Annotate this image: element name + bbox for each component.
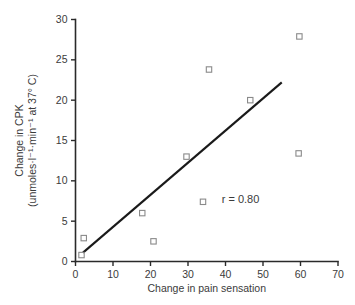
x-tick-label: 40 [220,268,232,280]
data-point [248,97,253,102]
y-axis-title-line2: (unmoles·l⁻¹·min⁻¹ at 37° C) [26,74,38,207]
y-tick-label: 25 [56,53,68,65]
y-tick-label: 15 [56,134,68,146]
data-point [140,210,145,215]
y-axis-title-line1: Change in CPK [13,104,25,176]
plot-area: 051015202530 010203040506070 r = 0.80 Ch… [0,0,355,305]
data-point [296,151,301,156]
x-tick-label: 70 [332,268,344,280]
regression-line [83,82,282,252]
y-axis-tick-labels: 051015202530 [56,13,68,267]
data-point [184,154,189,159]
y-axis-title: Change in CPK (unmoles·l⁻¹·min⁻¹ at 37° … [13,74,38,207]
x-axis-title: Change in pain sensation [147,282,266,294]
data-point [81,235,86,240]
y-tick-label: 10 [56,174,68,186]
y-tick-label: 0 [62,255,68,267]
data-point-markers [79,34,302,258]
data-point [79,252,84,257]
x-tick-label: 60 [295,268,307,280]
y-tick-label: 30 [56,13,68,25]
data-point [151,239,156,244]
correlation-annotation: r = 0.80 [222,193,260,205]
x-axis-tick-labels: 010203040506070 [73,268,344,280]
data-point [297,34,302,39]
x-tick-label: 20 [145,268,157,280]
data-point [206,67,211,72]
scatter-chart: 051015202530 010203040506070 r = 0.80 Ch… [0,0,355,305]
x-tick-label: 30 [182,268,194,280]
x-tick-label: 50 [257,268,269,280]
y-tick-label: 5 [62,215,68,227]
y-tick-label: 20 [56,94,68,106]
annotation-label: r = 0.80 [222,193,260,205]
data-point [200,199,205,204]
x-tick-label: 10 [107,268,119,280]
x-tick-label: 0 [73,268,79,280]
